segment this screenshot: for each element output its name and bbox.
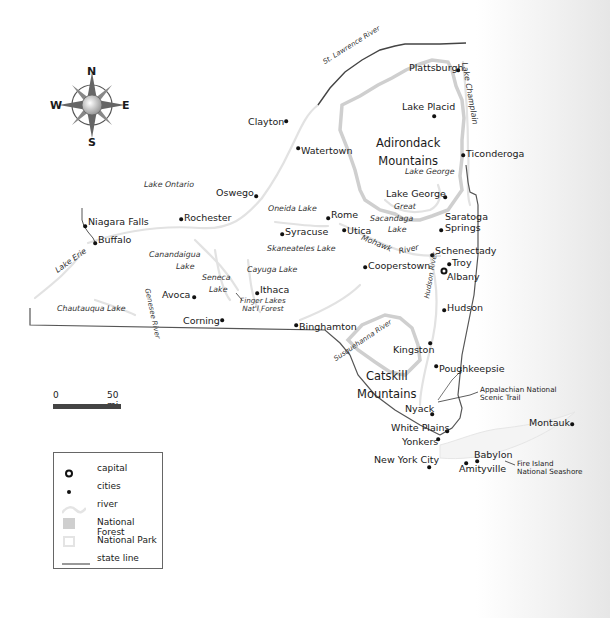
legend-label: river <box>97 499 118 509</box>
great-label: Great <box>394 203 416 211</box>
city-label-white-plains: White Plains <box>391 423 449 433</box>
city-label-lake-placid: Lake Placid <box>402 102 455 112</box>
city-dot-avoca[interactable] <box>192 295 196 299</box>
sacandaga-label: Sacandaga <box>370 215 413 223</box>
mountain-line: Mountains <box>357 386 417 404</box>
cayuga-lake-label: Cayuga Lake <box>247 266 297 274</box>
state-line-icon <box>62 554 76 565</box>
scale-bar-graphic <box>53 404 121 409</box>
seneca-label: Seneca <box>202 274 231 282</box>
city-dot-binghamton[interactable] <box>294 323 298 327</box>
appalachian-trail-label: Appalachian National Scenic Trail <box>480 386 557 403</box>
city-dot-hudson[interactable] <box>442 308 446 312</box>
city-label-albany: Albany <box>447 272 480 282</box>
city-label-ithaca: Ithaca <box>260 285 289 295</box>
compass-south-label: S <box>88 136 96 149</box>
legend-label: cities <box>97 481 121 491</box>
fire-island-leader <box>505 461 515 465</box>
city-dot-buffalo[interactable] <box>93 241 97 245</box>
map-legend: capital cities river National Forest Nat… <box>53 452 163 569</box>
lake-ontario-label: Lake Ontario <box>144 181 194 189</box>
canandaigua-lake-label: Lake <box>176 263 194 271</box>
mountain-line: Catskill <box>357 368 417 386</box>
city-dot-new-york-city[interactable] <box>427 465 431 469</box>
city-label-syracuse: Syracuse <box>285 227 328 237</box>
compass-west-label: W <box>50 99 62 112</box>
lake-george-water-label: Lake George <box>405 168 454 176</box>
park-line: Nat'l Forest <box>240 305 286 313</box>
city-label-buffalo: Buffalo <box>98 235 131 245</box>
legend-item-capital: capital <box>54 461 162 477</box>
city-label-lake-george: Lake George <box>386 189 446 199</box>
scale-start-label: 0 <box>53 390 59 400</box>
park-line: Scenic Trail <box>480 394 557 402</box>
finger-lakes-national-forest-label: Finger Lakes Nat'l Forest <box>240 297 286 314</box>
city-label-oswego: Oswego <box>216 188 254 198</box>
sacandaga-lake-label: Lake <box>388 226 406 234</box>
national-park-swatch <box>63 536 75 547</box>
city-label-niagara-falls: Niagara Falls <box>88 217 149 227</box>
city-label-rome: Rome <box>331 210 358 220</box>
city-dot-poughkeepsie[interactable] <box>434 364 438 368</box>
chautauqua-lake-label: Chautauqua Lake <box>57 305 125 313</box>
adirondack-mountains-label: Adirondack Mountains <box>376 135 440 171</box>
legend-item-national-park: National Park <box>54 533 162 549</box>
city-dot-syracuse[interactable] <box>280 232 284 236</box>
legend-label: National Park <box>97 535 157 545</box>
city-dot-watertown[interactable] <box>296 146 300 150</box>
city-dot-icon <box>62 482 76 493</box>
city-label-watertown: Watertown <box>301 146 352 156</box>
seneca-lake-label: Lake <box>209 286 227 294</box>
city-dot-ithaca[interactable] <box>255 291 259 295</box>
compass-east-label: E <box>122 99 130 112</box>
city-label-amityville: Amityville <box>459 464 506 474</box>
compass-rose <box>59 72 125 138</box>
canandaigua-label: Canandaigua <box>149 251 200 259</box>
city-dot-montauk[interactable] <box>570 422 574 426</box>
compass-north-label: N <box>87 65 96 78</box>
city-label-babylon: Babylon <box>474 450 512 460</box>
city-label-binghamton: Binghamton <box>299 322 357 332</box>
legend-item-river: river <box>54 497 162 513</box>
fire-island-seashore-label: Fire Island National Seashore <box>517 460 583 477</box>
city-dot-saratoga-springs[interactable] <box>439 228 443 232</box>
legend-item-national-forest: National Forest <box>54 515 162 531</box>
national-forest-swatch <box>63 518 75 529</box>
city-dot-utica[interactable] <box>342 228 346 232</box>
city-dot-cooperstown[interactable] <box>363 265 367 269</box>
oneida-lake-label: Oneida Lake <box>268 205 317 213</box>
city-label-saratoga: Saratoga <box>445 212 488 222</box>
city-label-cooperstown: Cooperstown <box>368 261 430 271</box>
city-dot-niagara-falls[interactable] <box>83 224 87 228</box>
capital-icon <box>62 464 76 475</box>
legend-item-state-line: state line <box>54 551 162 567</box>
city-label-clayton: Clayton <box>248 117 284 127</box>
city-dot-corning[interactable] <box>220 318 224 322</box>
city-dot-troy[interactable] <box>447 262 451 266</box>
catskill-mountains-label: Catskill Mountains <box>357 368 417 404</box>
city-dot-rome[interactable] <box>326 216 330 220</box>
city-label-avoca: Avoca <box>162 290 190 300</box>
city-dot-clayton[interactable] <box>284 119 288 123</box>
city-dot-rochester[interactable] <box>179 217 183 221</box>
city-label-ticonderoga: Ticonderoga <box>466 149 524 159</box>
city-dot-oswego[interactable] <box>254 194 258 198</box>
city-label-plattsburgh: Plattsburgh <box>409 63 463 73</box>
city-label-troy: Troy <box>452 258 472 268</box>
city-label-montauk: Montauk <box>529 418 570 428</box>
park-line: National Seashore <box>517 468 583 476</box>
city-label-kingston: Kingston <box>393 345 434 355</box>
city-dot-lake-placid[interactable] <box>432 114 436 118</box>
city-label-springs: Springs <box>445 223 481 233</box>
river-icon <box>62 500 76 511</box>
skaneateles-lake-label: Skaneateles Lake <box>267 245 336 253</box>
legend-item-cities: cities <box>54 479 162 495</box>
city-dot-ticonderoga[interactable] <box>461 153 465 157</box>
city-label-yonkers: Yonkers <box>402 437 438 447</box>
mountain-line: Adirondack <box>376 135 440 153</box>
city-label-poughkeepsie: Poughkeepsie <box>439 364 505 374</box>
city-label-hudson: Hudson <box>447 303 483 313</box>
city-label-corning: Corning <box>183 316 220 326</box>
legend-label: state line <box>97 553 139 563</box>
city-label-schenectady: Schenectady <box>435 246 496 256</box>
